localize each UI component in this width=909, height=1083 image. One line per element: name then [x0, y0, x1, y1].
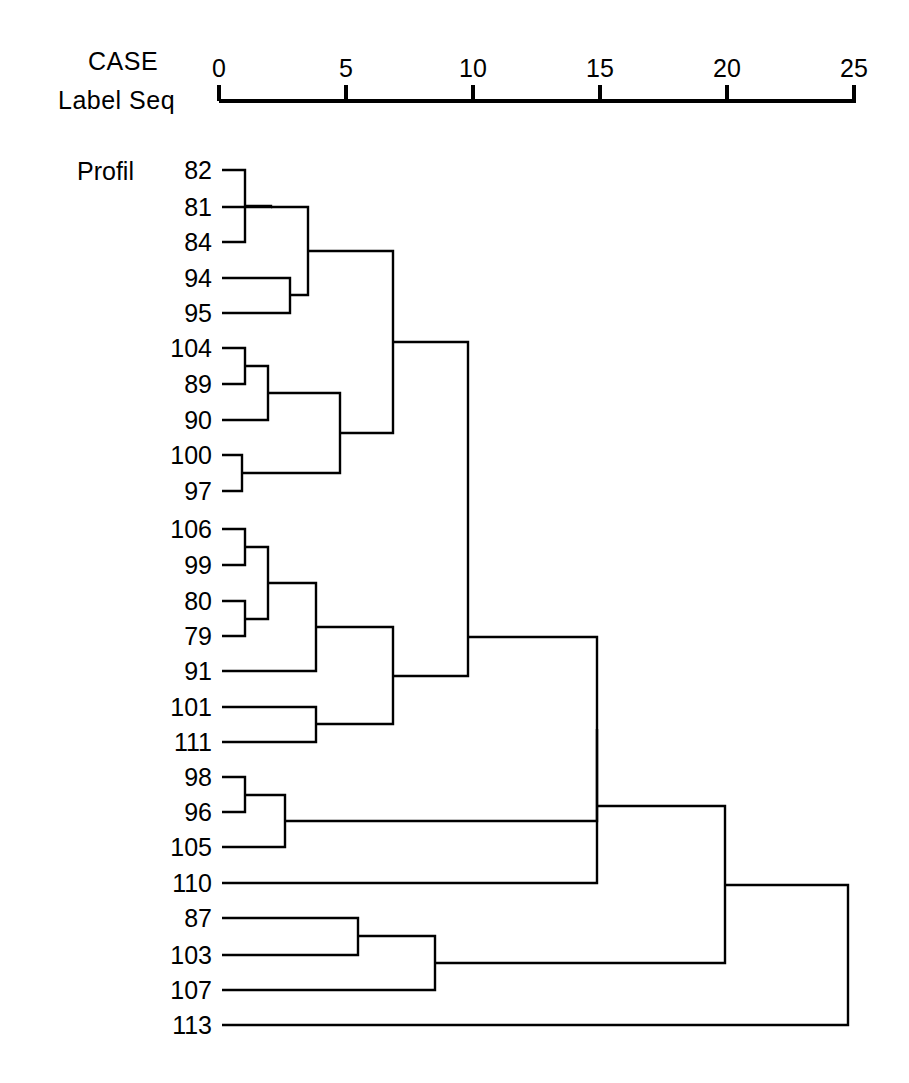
leaf-label-84: 84 [184, 228, 212, 256]
leaf-label-82: 82 [184, 156, 212, 184]
merge-link-m12 [245, 547, 268, 619]
leaf-label-96: 96 [184, 798, 212, 826]
dendrogram-page: CASE Label Seq Profil 0510152025 8281849… [0, 0, 909, 1083]
merge-link-m3 [222, 278, 290, 313]
leaf-label-81: 81 [184, 193, 212, 221]
leaf-label-111: 111 [174, 728, 212, 756]
leaf-label-column: 8281849495104899010097106998079911011119… [170, 156, 212, 1039]
dendrogram-figure: CASE Label Seq Profil 0510152025 8281849… [0, 0, 909, 1083]
merge-link-m22 [222, 936, 435, 990]
axis-tick-label-25: 25 [840, 54, 868, 82]
group-label-profil: Profil [77, 157, 134, 185]
merge-link-m16 [393, 342, 468, 676]
merge-link-m8 [242, 393, 340, 473]
header-case-label: CASE [88, 47, 158, 75]
merge-link-m21 [222, 918, 358, 955]
merge-link-m15 [316, 627, 393, 724]
axis-tick-labels: 0510152025 [212, 54, 868, 82]
leaf-label-80: 80 [184, 587, 212, 615]
leaf-label-110: 110 [172, 869, 212, 897]
merge-link-m7 [222, 455, 242, 491]
merge-link-m18 [222, 795, 285, 847]
merge-link-m14 [222, 707, 316, 742]
merge-links [222, 170, 848, 1025]
axis-tick-label-10: 10 [459, 54, 487, 82]
leaf-label-98: 98 [184, 763, 212, 791]
merge-link-m11 [222, 601, 245, 636]
leaf-label-104: 104 [170, 334, 212, 362]
leaf-label-107: 107 [170, 976, 212, 1004]
merge-link-m5 [222, 348, 245, 384]
leaf-label-113: 113 [172, 1011, 212, 1039]
axis-tick-label-15: 15 [586, 54, 614, 82]
axis-tick-label-5: 5 [339, 54, 353, 82]
leaf-label-100: 100 [170, 441, 212, 469]
merge-link-m2 [222, 206, 271, 207]
leaf-label-101: 101 [170, 693, 212, 721]
axis-tick-marks [219, 85, 854, 101]
axis-tick-label-0: 0 [212, 54, 226, 82]
merge-link-m19 [285, 637, 597, 821]
leaf-label-106: 106 [170, 515, 212, 543]
merge-link-m23 [435, 806, 725, 963]
merge-link-m20 [222, 729, 597, 883]
merge-link-m17 [222, 777, 245, 812]
axis-tick-label-20: 20 [713, 54, 741, 82]
leaf-label-99: 99 [184, 551, 212, 579]
header-label-seq-label: Label Seq [58, 86, 175, 114]
leaf-label-89: 89 [184, 370, 212, 398]
leaf-label-95: 95 [184, 299, 212, 327]
leaf-label-94: 94 [184, 264, 212, 292]
merge-link-m9 [308, 251, 393, 433]
axis-scale: 0510152025 [212, 54, 868, 101]
leaf-label-105: 105 [170, 833, 212, 861]
leaf-label-90: 90 [184, 406, 212, 434]
leaf-label-91: 91 [184, 657, 212, 685]
merge-link-m10 [222, 529, 245, 565]
leaf-label-97: 97 [184, 477, 212, 505]
leaf-label-87: 87 [184, 904, 212, 932]
leaf-label-103: 103 [170, 941, 212, 969]
leaf-label-79: 79 [184, 622, 212, 650]
